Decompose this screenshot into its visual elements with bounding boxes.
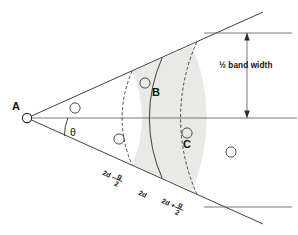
distance-label-middle-prefix: 2d	[138, 189, 148, 199]
beam-sector-diagram: A θ B C ½ band width 2d - g 2 2d 2d + g …	[0, 0, 298, 235]
distance-label-outer-prefix: 2d +	[161, 197, 177, 209]
scatter-circle	[226, 147, 236, 157]
apex-label: A	[12, 100, 20, 112]
distance-label-outer: 2d + g 2	[159, 194, 187, 218]
distance-label-inner-prefix: 2d -	[102, 169, 117, 181]
theta-label: θ	[70, 126, 76, 138]
distance-label-outer-denominator: 2	[174, 209, 181, 217]
distance-label-middle: 2d	[138, 189, 148, 199]
band-width-label: ½ band width	[219, 61, 273, 70]
distance-label-inner: 2d - g 2	[100, 166, 126, 189]
figure-root: A θ B C ½ band width 2d - g 2 2d 2d + g …	[0, 0, 298, 235]
theta-angle-arc	[64, 118, 68, 136]
point-label-b: B	[152, 86, 160, 98]
band-width-arrowhead-up	[244, 33, 250, 41]
apex-marker	[22, 113, 31, 122]
distance-label-inner-denominator: 2	[113, 180, 120, 188]
point-label-c: C	[183, 138, 191, 150]
scatter-circle	[70, 103, 80, 113]
scatter-circle	[114, 134, 124, 144]
band-width-arrowhead-down	[244, 111, 250, 119]
